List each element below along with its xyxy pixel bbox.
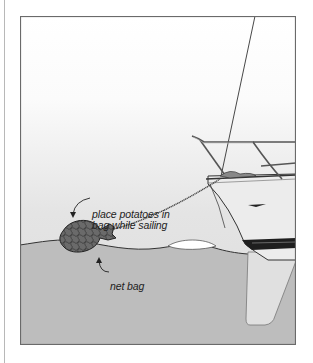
potatoes-annotation-line2: bag while sailing bbox=[92, 220, 170, 231]
net-bag-annotation: net bag bbox=[110, 281, 144, 292]
boot-stripe bbox=[242, 238, 296, 250]
page-margin-line bbox=[4, 0, 5, 363]
potatoes-annotation: place potatoes in bag while sailing bbox=[92, 209, 170, 231]
sailboat-illustration bbox=[20, 16, 296, 345]
illustration-frame: place potatoes in bag while sailing net … bbox=[20, 16, 296, 345]
